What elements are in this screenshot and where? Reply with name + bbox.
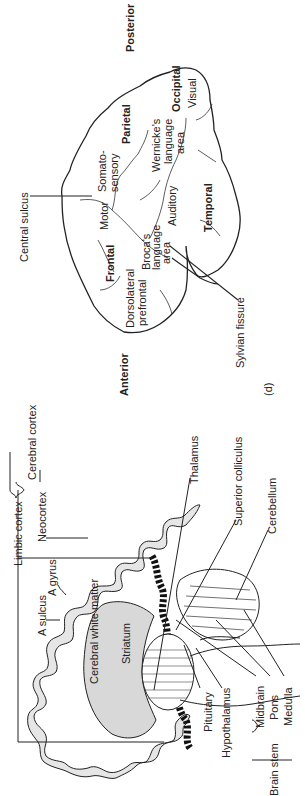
label-hypothalamus: Hypothalamus bbox=[220, 688, 232, 758]
label-temporal: Temporal bbox=[202, 183, 214, 232]
label-frontal: Frontal bbox=[104, 245, 116, 282]
label-dorsolateral: Dorsolateral bbox=[124, 269, 136, 328]
label-medulla: Medulla bbox=[282, 687, 294, 726]
label-wernicke-3: area bbox=[174, 132, 186, 154]
label-midbrain: Midbrain bbox=[254, 686, 266, 728]
label-occipital: Occipital bbox=[170, 66, 182, 112]
label-central-sulcus: Central sulcus bbox=[18, 192, 30, 262]
label-cerebral-white-matter: Cerebral white matter bbox=[88, 579, 100, 684]
label-somatosensory-1: Somato- bbox=[96, 150, 108, 192]
label-a-sulcus: A sulcus bbox=[36, 595, 48, 636]
label-sylvian-fissure: Sylvian fissure bbox=[234, 297, 246, 368]
label-neocortex: Neocortex bbox=[36, 492, 48, 542]
label-pons: Pons bbox=[268, 695, 280, 720]
label-posterior: Posterior bbox=[124, 4, 136, 52]
sylvian-fissure-line bbox=[170, 246, 238, 300]
label-brain-stem: Brain stem bbox=[268, 743, 280, 796]
label-pituitary: Pituitary bbox=[202, 692, 214, 732]
label-wernicke-1: Wernicke's bbox=[150, 119, 162, 172]
thalamus-shape bbox=[142, 634, 194, 710]
label-cerebral-cortex: Cerebral cortex bbox=[26, 405, 38, 480]
label-visual: Visual bbox=[186, 78, 198, 108]
label-broca-3: area bbox=[160, 242, 172, 264]
label-limbic-cortex: Limbic cortex bbox=[12, 501, 24, 566]
label-anterior: Anterior bbox=[118, 353, 130, 396]
label-motor: Motor bbox=[98, 202, 110, 230]
label-cerebellum: Cerebellum bbox=[266, 478, 278, 534]
label-a-gyrus: A gyrus bbox=[46, 559, 58, 596]
label-parietal: Parietal bbox=[120, 104, 132, 144]
label-wernicke-2: language bbox=[162, 119, 174, 164]
label-striatum: Striatum bbox=[120, 623, 132, 664]
label-thalamus: Thalamus bbox=[188, 436, 200, 484]
sagittal-leader-lines bbox=[18, 478, 284, 742]
label-auditory: Auditory bbox=[166, 186, 178, 226]
label-somatosensory-2: sensory bbox=[108, 153, 120, 192]
panel-label-d: (d) bbox=[262, 383, 274, 396]
label-prefrontal: prefrontal bbox=[136, 280, 148, 326]
label-superior-colliculus: Superior colliculus bbox=[232, 437, 244, 526]
